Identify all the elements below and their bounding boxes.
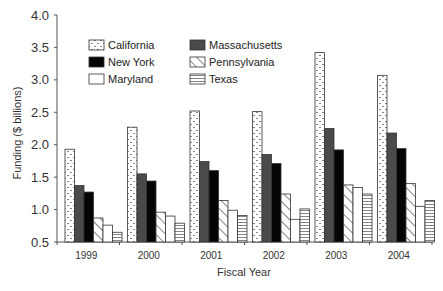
chart: 0.51.01.52.02.53.03.54.0 199920002001200… (0, 0, 443, 291)
bar-texas-2004 (425, 200, 435, 242)
bar-california-1999 (65, 149, 75, 242)
legend-label: Pennsylvania (209, 56, 275, 68)
legend-swatch-pennsylvania (190, 57, 205, 67)
bar-new-york-2004 (397, 149, 407, 242)
bar-texas-2001 (238, 215, 248, 242)
bar-maryland-2003 (353, 188, 363, 242)
bar-pennsylvania-2003 (344, 185, 354, 242)
bar-texas-2002 (300, 209, 310, 242)
legend-swatch-new-york (89, 57, 104, 67)
bar-texas-1999 (113, 232, 123, 242)
legend-label: Texas (209, 73, 238, 85)
bar-california-2000 (128, 127, 138, 242)
legend-label: Massachusetts (209, 39, 283, 51)
legend-label: Maryland (108, 73, 153, 85)
bar-maryland-1999 (103, 225, 113, 242)
legend-swatch-texas (190, 74, 205, 84)
y-tick-label: 3.0 (31, 72, 49, 87)
y-tick-label: 4.0 (31, 8, 49, 23)
bar-new-york-2002 (272, 164, 282, 242)
bar-massachusetts-2004 (387, 133, 397, 242)
bar-massachusetts-2001 (200, 162, 210, 242)
bar-california-2001 (190, 111, 200, 242)
legend-label: California (108, 39, 155, 51)
legend-label: New York (108, 56, 155, 68)
y-axis: 0.51.01.52.02.53.03.54.0 (31, 8, 57, 250)
bar-texas-2000 (175, 223, 185, 242)
legend-swatch-california (89, 40, 104, 50)
x-tick-label: 2004 (388, 250, 411, 261)
bar-maryland-2001 (228, 210, 238, 242)
x-tick-label: 2001 (200, 250, 223, 261)
bar-massachusetts-2003 (325, 129, 335, 243)
x-axis: 199920002001200220032004 (57, 242, 432, 261)
y-tick-label: 2.0 (31, 137, 49, 152)
x-tick-label: 1999 (75, 250, 98, 261)
y-axis-title: Funding ($ billions) (11, 87, 23, 180)
y-tick-label: 2.5 (31, 105, 49, 120)
bar-new-york-1999 (84, 192, 94, 242)
legend-swatch-massachusetts (190, 40, 205, 50)
bar-maryland-2000 (166, 216, 176, 242)
x-tick-label: 2003 (325, 250, 348, 261)
bar-pennsylvania-2004 (406, 184, 416, 242)
bar-pennsylvania-1999 (94, 218, 104, 242)
bar-pennsylvania-2001 (219, 200, 229, 242)
bar-new-york-2001 (209, 171, 219, 242)
bar-massachusetts-1999 (75, 186, 85, 242)
y-tick-label: 1.0 (31, 202, 49, 217)
x-tick-label: 2002 (263, 250, 286, 261)
y-tick-label: 3.5 (31, 40, 49, 55)
x-tick-label: 2000 (138, 250, 161, 261)
legend: CaliforniaMassachusettsNew YorkPennsylva… (89, 39, 283, 85)
bar-california-2002 (253, 112, 263, 242)
bar-pennsylvania-2000 (156, 212, 166, 242)
bar-maryland-2004 (416, 206, 426, 242)
bar-maryland-2002 (291, 219, 301, 242)
bar-massachusetts-2002 (262, 154, 272, 242)
y-tick-label: 1.5 (31, 170, 49, 185)
y-tick-label: 0.5 (31, 235, 49, 250)
x-axis-title: Fiscal Year (217, 266, 271, 278)
bar-massachusetts-2000 (137, 174, 147, 242)
bar-new-york-2000 (147, 181, 157, 242)
bar-chart-svg: 0.51.01.52.02.53.03.54.0 199920002001200… (0, 0, 443, 291)
legend-swatch-maryland (89, 74, 104, 84)
bar-california-2004 (378, 75, 388, 242)
bar-pennsylvania-2002 (281, 194, 291, 242)
bar-texas-2003 (363, 194, 373, 242)
bar-new-york-2003 (334, 150, 344, 242)
bar-california-2003 (315, 53, 325, 242)
